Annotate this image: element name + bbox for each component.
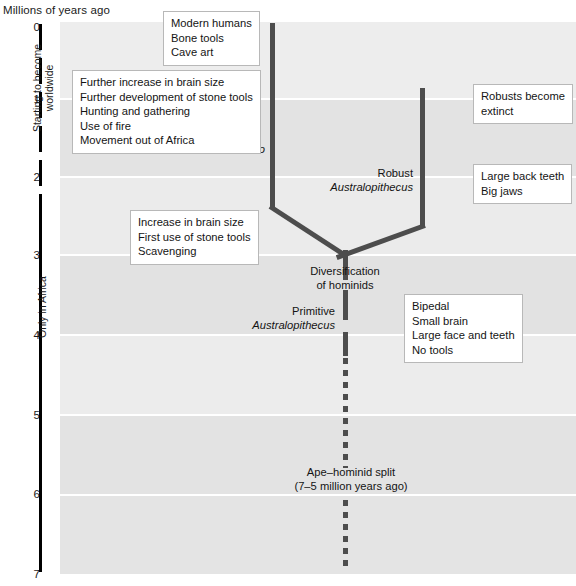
australopithecus-traits-callout: Bipedal Small brain Large face and teeth… bbox=[404, 294, 523, 363]
y-axis-caption: Millions of years ago bbox=[3, 4, 110, 16]
tree-label-split-line1: Ape–hominid split bbox=[307, 466, 395, 478]
tree-label-primitive-line2: Australopithecus bbox=[252, 319, 335, 331]
callout-line: Large back teeth bbox=[481, 169, 564, 184]
range-label-worldwide-line1: Starting to become bbox=[31, 44, 43, 132]
robusts-extinct-callout: Robusts become extinct bbox=[473, 84, 573, 124]
ape-hominid-dashed-line bbox=[343, 358, 348, 468]
robust-traits-callout: Large back teeth Big jaws bbox=[473, 164, 572, 204]
modern-humans-callout: Modern humans Bone tools Cave art bbox=[163, 11, 260, 66]
callout-line: Modern humans bbox=[171, 16, 252, 31]
hominid-evolution-diagram: Millions of years ago 0 1 2 3 4 5 6 7 St… bbox=[0, 0, 576, 586]
tree-label-primitive-line1: Primitive bbox=[292, 305, 335, 317]
tree-label-diversification-line1: Diversification bbox=[310, 265, 380, 277]
primitive-lineage-stem-2 bbox=[343, 290, 348, 320]
tree-label-ape-hominid-split: Ape–hominid split (7–5 million years ago… bbox=[294, 466, 407, 494]
ytick-4: 4 bbox=[0, 329, 40, 341]
callout-line: Big jaws bbox=[481, 184, 564, 199]
tree-label-robust-australopithecus: Robust Australopithecus bbox=[300, 167, 413, 195]
tree-label-diversification-line2: of hominids bbox=[316, 279, 373, 291]
tree-label-primitive-australopithecus: Primitive Australopithecus bbox=[230, 305, 335, 333]
range-label-only-in-africa-line1: Only in Africa bbox=[36, 276, 48, 338]
primitive-lineage-stem-3 bbox=[343, 332, 348, 356]
band-6-7 bbox=[60, 496, 576, 574]
callout-line: Further increase in brain size bbox=[80, 75, 253, 90]
ytick-7: 7 bbox=[0, 568, 40, 580]
callout-line: Hunting and gathering bbox=[80, 104, 253, 119]
callout-line: Increase in brain size bbox=[138, 215, 251, 230]
ytick-2: 2 bbox=[0, 171, 40, 183]
callout-line: First use of stone tools bbox=[138, 230, 251, 245]
homo-lineage-line bbox=[270, 23, 275, 207]
ytick-6: 6 bbox=[0, 488, 40, 500]
callout-line: Cave art bbox=[171, 45, 252, 60]
callout-line: extinct bbox=[481, 104, 565, 119]
ape-hominid-dashed-line-2 bbox=[343, 500, 348, 570]
callout-line: No tools bbox=[412, 343, 515, 358]
callout-line: Bipedal bbox=[412, 299, 515, 314]
range-label-worldwide: Starting to become worldwide bbox=[32, 26, 56, 150]
callout-line: Further development of stone tools bbox=[80, 90, 253, 105]
tree-label-diversification: Diversification of hominids bbox=[310, 265, 380, 293]
range-label-worldwide-line2: worldwide bbox=[43, 65, 55, 112]
callout-line: Scavenging bbox=[138, 244, 251, 259]
homo-traits-callout: Further increase in brain size Further d… bbox=[72, 70, 261, 154]
tree-label-robust-line1: Robust bbox=[378, 167, 413, 179]
tree-label-robust-line2: Australopithecus bbox=[330, 181, 413, 193]
callout-line: Small brain bbox=[412, 314, 515, 329]
robust-lineage-line bbox=[420, 88, 425, 226]
callout-line: Bone tools bbox=[171, 31, 252, 46]
callout-line: Use of fire bbox=[80, 119, 253, 134]
tree-label-split-line2: (7–5 million years ago) bbox=[294, 480, 407, 492]
callout-line: Large face and teeth bbox=[412, 328, 515, 343]
callout-line: Movement out of Africa bbox=[80, 133, 253, 148]
range-label-only-in-africa: Only in Africa bbox=[37, 228, 49, 338]
early-homo-traits-callout: Increase in brain size First use of ston… bbox=[130, 210, 259, 265]
ytick-3: 3 bbox=[0, 249, 40, 261]
ytick-5: 5 bbox=[0, 409, 40, 421]
callout-line: Robusts become bbox=[481, 89, 565, 104]
